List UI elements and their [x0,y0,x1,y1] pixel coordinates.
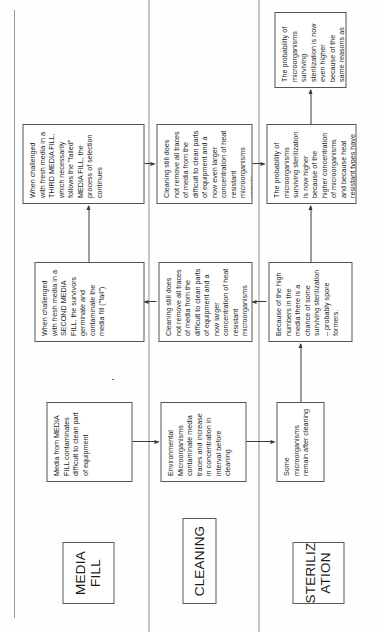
connector-mf2-to-mf3 [88,206,89,262]
node-sterilization-4: The probability of microorganisms surviv… [274,12,346,88]
lane-title-sterilization: STERILIZ ATION [292,542,344,604]
connector-mf3-to-cl3 [144,163,154,164]
page-margin-rule [14,10,15,618]
node-cleaning-1: Environmental Microorganisms contaminate… [160,402,246,482]
lane-title-cleaning: CLEANING [182,518,216,604]
lane-divider-media-fill-cleaning [148,0,149,632]
connector-cl2-to-mf2 [144,301,156,302]
connector-st2-to-cl2 [252,301,266,302]
lane-divider-cleaning-sterilization [258,0,259,632]
node-media-fill-3: When challenged with fresh media in a TH… [22,124,144,204]
connector-st1-to-st2 [300,344,301,402]
connector-st2-to-st3 [310,206,311,262]
connector-elbow-cl1-to-mf2 [112,379,113,380]
node-cleaning-3: Cleaning still does not remove all trace… [156,124,252,204]
node-sterilization-1: Some microorganisms remain after cleanin… [276,402,324,482]
node-sterilization-2: Because of the high numbers in the media… [268,262,352,342]
connector-st3-to-st4 [310,90,311,124]
flowchart-canvas: MEDIA FILL CLEANING STERILIZ ATION Media… [0,0,385,632]
connector-cl3-to-st3 [252,163,264,164]
connector-mf1-to-cl1 [132,441,158,442]
scanned-page: MEDIA FILL CLEANING STERILIZ ATION Media… [0,0,385,632]
node-sterilization-3: The probability of microorganisms surviv… [266,124,356,204]
node-media-fill-2: When challenged with fresh media in a SE… [34,262,144,342]
node-cleaning-2: Cleaning still does not remove all trace… [158,262,252,342]
connector-cl1-to-st1 [246,441,274,442]
lane-title-media-fill: MEDIA FILL [62,542,114,604]
node-media-fill-1: Media from MEDIA FILL contaminates diffi… [46,402,132,482]
